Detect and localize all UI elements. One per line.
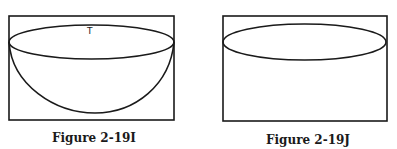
bowl-curve xyxy=(9,42,174,113)
frame-rectangle xyxy=(223,16,387,121)
top-ellipse xyxy=(223,24,386,60)
figure-2-19j-drawing xyxy=(223,16,387,121)
label-t: T xyxy=(86,26,93,36)
figure-drawings: T xyxy=(0,0,397,149)
caption-figure-2-19i: Figure 2-19I xyxy=(52,131,136,145)
caption-figure-2-19j: Figure 2-19J xyxy=(266,133,350,147)
